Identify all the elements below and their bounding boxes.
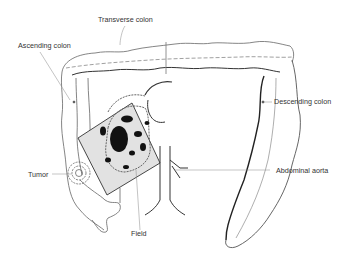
label-tumor: Tumor: [28, 171, 49, 178]
tumor-shape: [68, 162, 90, 184]
label-ascending-colon: Ascending colon: [18, 42, 71, 49]
colon-illustration: [0, 0, 353, 262]
descending-colon-shape: [226, 60, 301, 248]
label-transverse-colon: Transverse colon: [98, 16, 153, 23]
colon-diagram: Transverse colon Ascending colon Descend…: [0, 0, 353, 262]
label-abdominal-aorta: Abdominal aorta: [276, 167, 328, 174]
transverse-colon-shape: [62, 41, 294, 75]
label-field: Field: [131, 230, 147, 237]
label-descending-colon: Descending colon: [274, 98, 331, 105]
vessel-curve: [145, 82, 172, 95]
